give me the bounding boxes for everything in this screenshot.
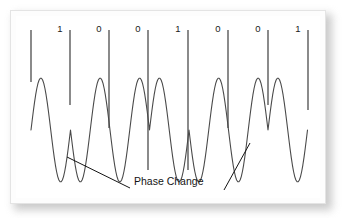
phase-change-leader-line — [224, 143, 250, 190]
waveform-plot-area: 1001001 Phase Change — [10, 10, 326, 204]
figure-root: 1001001 Phase Change — [0, 0, 344, 218]
carrier-waveform-path — [31, 78, 308, 182]
phase-change-annotation-label: Phase Change — [134, 175, 203, 188]
